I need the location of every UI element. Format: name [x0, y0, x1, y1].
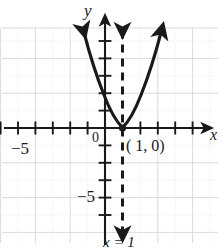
grid-minor [2, 28, 218, 243]
y-tick-label-neg5: −5 [77, 188, 95, 205]
origin-label: 0 [92, 131, 99, 145]
y-axis-label: y [84, 2, 92, 19]
x-axis [1, 122, 207, 135]
x-axis-label: x [210, 127, 217, 143]
vertex-dot [119, 124, 126, 131]
y-axis [99, 20, 112, 245]
grid-major [1, 28, 218, 243]
x-tick-label-neg5: −5 [11, 140, 29, 157]
vertex-point-label: ( 1, 0) [126, 138, 165, 154]
graph-figure: y x 0 −5 −5 ( 1, 0) x = 1 [0, 0, 224, 249]
asymptote-equation-label: x = 1 [103, 235, 135, 249]
coordinate-plane-svg [0, 0, 224, 249]
